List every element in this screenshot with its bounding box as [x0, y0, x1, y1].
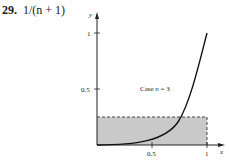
y-axis-label: y — [88, 11, 93, 19]
chart: y 1 0.5 0.5 1 x Case n = 3 — [0, 0, 229, 161]
x-axis-arrow-icon — [218, 143, 225, 147]
x-axis-label: x — [219, 148, 224, 156]
shaded-region — [97, 117, 207, 145]
x-tick-label-05: 0.5 — [147, 150, 156, 158]
y-axis-arrow-icon — [95, 12, 99, 19]
x-tick-label-1: 1 — [205, 150, 209, 158]
case-prefix: Case — [140, 85, 155, 93]
y-tick-label-1: 1 — [87, 30, 91, 38]
y-tick-label-05: 0.5 — [81, 86, 90, 94]
case-suffix: = 3 — [159, 85, 170, 93]
case-annotation: Case n = 3 — [140, 85, 170, 93]
